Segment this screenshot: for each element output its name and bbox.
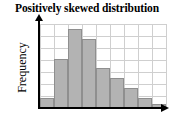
bar xyxy=(124,88,138,108)
bar xyxy=(54,59,68,108)
y-axis-label-container: Frequency xyxy=(14,26,30,108)
x-axis-line xyxy=(38,107,162,109)
gridline-vertical xyxy=(166,24,167,108)
bar xyxy=(96,68,110,108)
arrow-right-icon xyxy=(161,104,169,112)
plot-area xyxy=(40,24,166,108)
bar-series xyxy=(40,24,166,108)
bar xyxy=(110,78,124,108)
chart-figure: Positively skewed distribution Frequency xyxy=(0,0,174,119)
bar xyxy=(82,39,96,108)
arrow-up-icon xyxy=(35,14,43,21)
y-axis-line xyxy=(38,20,40,109)
y-axis-label: Frequency xyxy=(15,42,30,93)
page-title: Positively skewed distribution xyxy=(0,1,174,16)
bar xyxy=(68,29,82,108)
